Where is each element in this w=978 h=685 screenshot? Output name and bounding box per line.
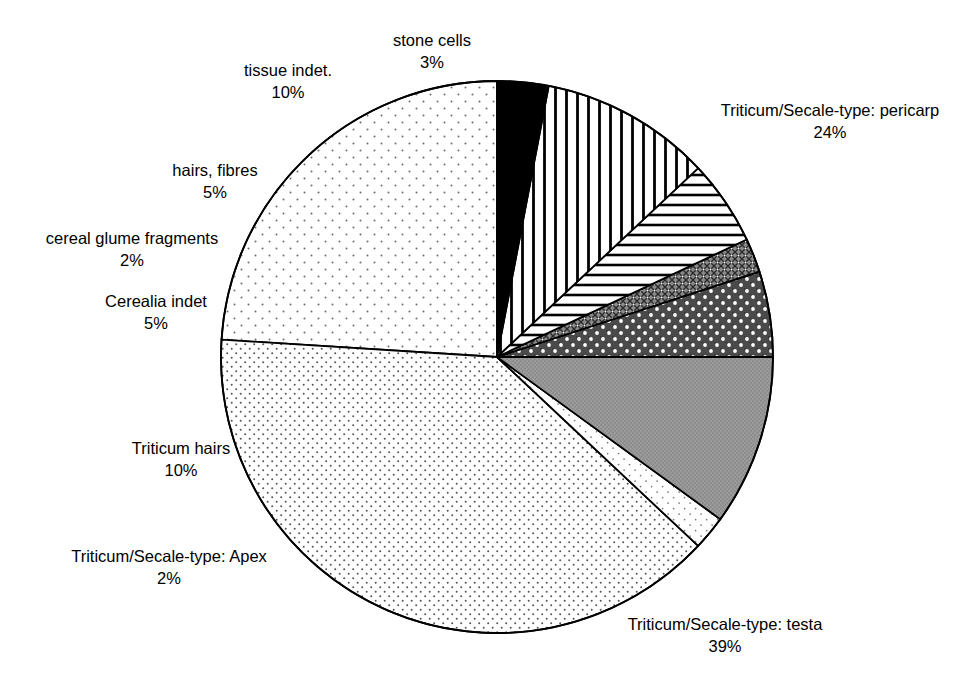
pie-label-testa-name: Triticum/Secale-type: testa: [600, 614, 850, 636]
pie-label-cerealia-indet-percent: 5%: [76, 313, 236, 335]
pie-label-cereal-glume-fragments-name: cereal glume fragments: [18, 228, 246, 250]
pie-label-testa-percent: 39%: [600, 636, 850, 658]
pie-label-testa: Triticum/Secale-type: testa 39%: [600, 614, 850, 658]
pie-label-cerealia-indet-name: Cerealia indet: [76, 291, 236, 313]
pie-label-stone-cells-name: stone cells: [352, 30, 512, 52]
pie-label-triticum-hairs-name: Triticum hairs: [96, 438, 266, 460]
pie-label-hairs-fibres: hairs, fibres 5%: [125, 160, 305, 204]
pie-label-tissue-indet-name: tissue indet.: [198, 60, 378, 82]
pie-label-tissue-indet: tissue indet. 10%: [198, 60, 378, 104]
pie-chart-page: stone cells 3% tissue indet. 10% hairs, …: [0, 0, 978, 685]
pie-slice: [222, 81, 497, 357]
pie-label-cerealia-indet: Cerealia indet 5%: [76, 291, 236, 335]
pie-label-triticum-hairs: Triticum hairs 10%: [96, 438, 266, 482]
pie-label-tissue-indet-percent: 10%: [198, 82, 378, 104]
pie-label-cereal-glume-fragments-percent: 2%: [18, 250, 246, 272]
pie-label-pericarp-percent: 24%: [692, 122, 968, 144]
pie-label-pericarp-name: Triticum/Secale-type: pericarp: [692, 100, 968, 122]
pie-label-cereal-glume-fragments: cereal glume fragments 2%: [18, 228, 246, 272]
pie-label-apex: Triticum/Secale-type: Apex 2%: [44, 546, 294, 590]
pie-label-hairs-fibres-percent: 5%: [125, 182, 305, 204]
pie-label-apex-name: Triticum/Secale-type: Apex: [44, 546, 294, 568]
pie-label-apex-percent: 2%: [44, 568, 294, 590]
pie-label-hairs-fibres-name: hairs, fibres: [125, 160, 305, 182]
pie-label-triticum-hairs-percent: 10%: [96, 460, 266, 482]
pie-label-pericarp: Triticum/Secale-type: pericarp 24%: [692, 100, 968, 144]
